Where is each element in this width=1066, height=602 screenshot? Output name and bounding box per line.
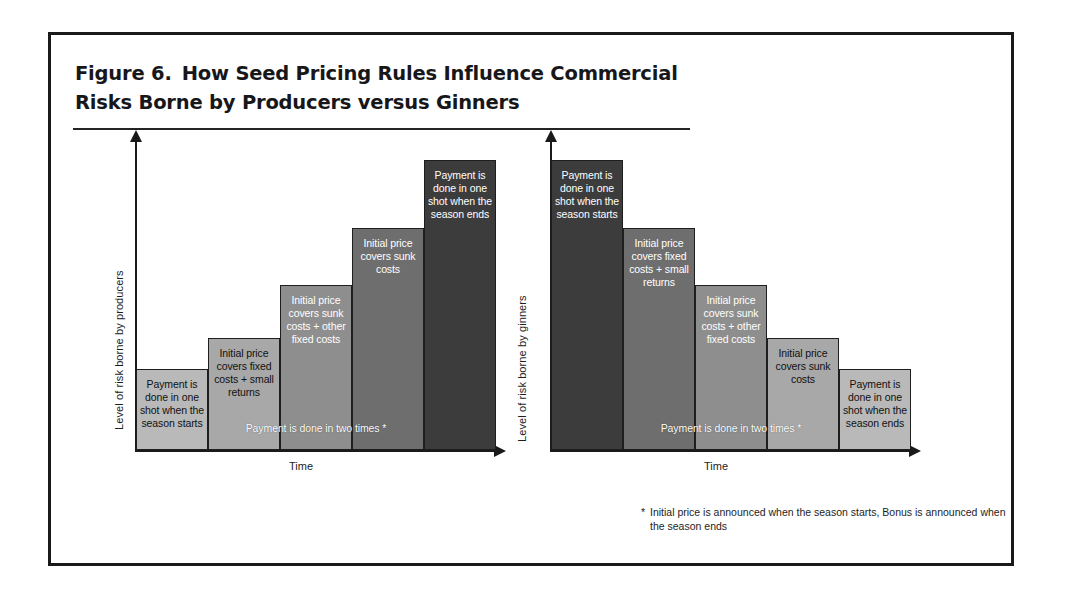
figure-frame: Figure 6.How Seed Pricing Rules Influenc… [48, 32, 1014, 566]
footnote-marker: * [641, 505, 645, 519]
x-axis-label-ginners: Time [676, 460, 756, 472]
plot-area-ginners: Payment is done in one shot when the sea… [551, 138, 911, 450]
overlay-note-ginners: Payment is done in two times * [612, 422, 850, 434]
overlay-note-producers: Payment is done in two times * [197, 422, 435, 434]
figure-title: Figure 6.How Seed Pricing Rules Influenc… [75, 59, 715, 117]
bar-label-ginners-3: Initial price covers sunk costs + other … [696, 294, 766, 346]
bar-label-ginners-1: Payment is done in one shot when the sea… [552, 169, 622, 221]
x-axis-line-producers [135, 450, 495, 452]
figure-footnote: * Initial price is announced when the se… [641, 505, 1011, 533]
x-axis-line-ginners [550, 450, 910, 452]
plot-area-producers: Payment is done in one shot when the sea… [136, 138, 496, 450]
figure-number-label: Figure 6. [75, 59, 172, 88]
bar-label-producers-3: Initial price covers sunk costs + other … [281, 294, 351, 346]
chart-producers: Level of risk borne by producers Payment… [91, 130, 511, 490]
bar-label-producers-5: Payment is done in one shot when the sea… [425, 169, 495, 221]
bar-producers-4: Initial price covers sunk costs [352, 228, 424, 450]
y-axis-label-producers: Level of risk borne by producers [113, 210, 125, 430]
bar-label-ginners-2: Initial price covers fixed costs + small… [624, 237, 694, 289]
footnote-text: Initial price is announced when the seas… [641, 505, 1011, 533]
y-axis-label-ginners: Level of risk borne by ginners [516, 222, 528, 442]
bar-producers-5: Payment is done in one shot when the sea… [424, 160, 496, 450]
bar-ginners-1: Payment is done in one shot when the sea… [551, 160, 623, 450]
bar-ginners-2: Initial price covers fixed costs + small… [623, 228, 695, 450]
bar-label-ginners-5: Payment is done in one shot when the sea… [840, 378, 910, 430]
bar-producers-1: Payment is done in one shot when the sea… [136, 369, 208, 450]
chart-ginners: Level of risk borne by ginners Payment i… [506, 130, 976, 490]
bar-label-producers-4: Initial price covers sunk costs [353, 237, 423, 276]
x-axis-label-producers: Time [261, 460, 341, 472]
bar-ginners-5: Payment is done in one shot when the sea… [839, 369, 911, 450]
bar-label-producers-2: Initial price covers fixed costs + small… [209, 347, 279, 399]
bar-label-ginners-4: Initial price covers sunk costs [768, 347, 838, 386]
